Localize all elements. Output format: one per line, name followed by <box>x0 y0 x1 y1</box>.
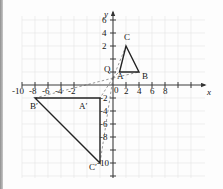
ray-q-to-c <box>113 46 126 78</box>
axis-lines <box>22 12 205 178</box>
triangle-a-b-c-prime <box>35 98 100 163</box>
coordinate-plane <box>0 0 223 189</box>
grid-lines-vertical <box>22 16 191 178</box>
figure-canvas: x y 0 -10 -8 -6 -4 -2 2 4 6 8 6 4 2 -2 -… <box>0 0 223 189</box>
